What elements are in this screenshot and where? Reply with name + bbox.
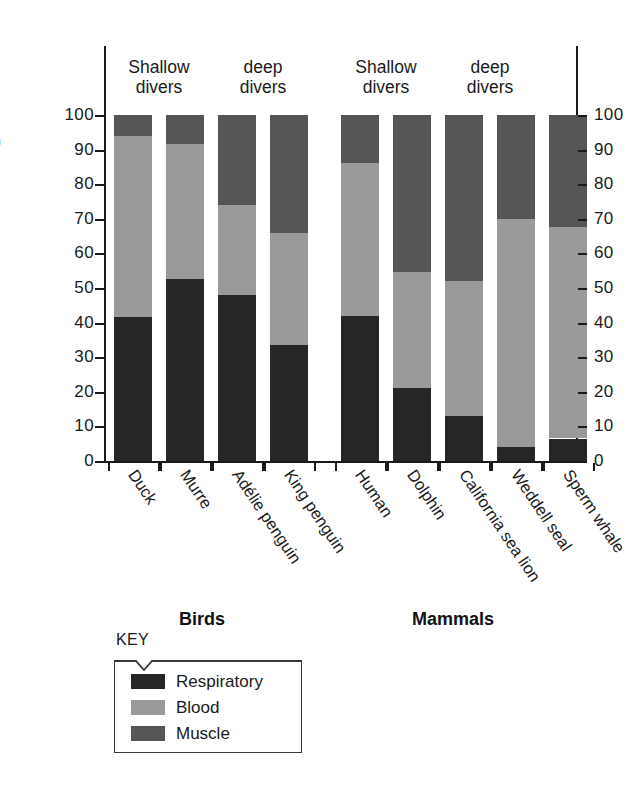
bar-weddell-seal	[497, 115, 535, 461]
x-tick	[593, 463, 595, 471]
y-tick-left	[95, 253, 104, 255]
y-tick-label-right: 50	[594, 279, 614, 296]
segment-muscle	[341, 115, 379, 163]
segment-respiratory	[114, 317, 152, 461]
y-tick-left	[95, 323, 104, 325]
segment-respiratory	[218, 295, 256, 461]
y-tick-right	[578, 426, 587, 428]
segment-blood	[166, 144, 204, 279]
y-tick-label-right: 0	[594, 452, 604, 469]
legend-item-blood: Blood	[131, 699, 219, 716]
legend-swatch-blood	[131, 700, 165, 715]
y-tick-label-left: 80	[74, 175, 94, 192]
segment-respiratory	[166, 279, 204, 461]
y-tick-left	[95, 288, 104, 290]
segment-blood	[114, 136, 152, 318]
y-tick-label-right: 100	[594, 106, 624, 123]
y-tick-label-left: 100	[64, 106, 94, 123]
segment-muscle	[166, 115, 204, 144]
y-tick-label-left: 20	[74, 383, 94, 400]
y-tick-left	[95, 392, 104, 394]
y-tick-right	[578, 184, 587, 186]
y-tick-label-right: 30	[594, 348, 614, 365]
x-axis-label-murre: Murre	[176, 466, 216, 512]
y-axis-title: % Total O2 store	[0, 87, 3, 232]
y-tick-left	[95, 219, 104, 221]
bar-ad-lie-penguin	[218, 115, 256, 461]
y-tick-label-left: 90	[74, 141, 94, 158]
segment-blood	[497, 219, 535, 447]
y-tick-left	[95, 357, 104, 359]
bar-dolphin	[393, 115, 431, 461]
y-tick-label-right: 80	[594, 175, 614, 192]
y-tick-left	[95, 426, 104, 428]
x-tick	[108, 463, 110, 471]
segment-muscle	[549, 115, 587, 227]
bar-duck	[114, 115, 152, 461]
segment-respiratory	[497, 447, 535, 461]
y-tick-right	[578, 253, 587, 255]
segment-muscle	[114, 115, 152, 136]
segment-respiratory	[445, 416, 483, 461]
x-tick	[314, 463, 316, 471]
legend-box: RespiratoryBloodMuscle	[114, 661, 302, 753]
y-tick-label-right: 20	[594, 383, 614, 400]
x-tick	[264, 463, 266, 471]
segment-blood	[218, 205, 256, 295]
x-tick	[335, 463, 337, 471]
segment-blood	[393, 272, 431, 388]
legend-swatch-respiratory	[131, 674, 165, 689]
caption-mammals-deep-divers: deep divers	[415, 57, 565, 97]
y-tick-left	[95, 184, 104, 186]
y-tick-label-left: 40	[74, 314, 94, 331]
bar-king-penguin	[270, 115, 308, 461]
y-tick-label-right: 60	[594, 244, 614, 261]
segment-muscle	[497, 115, 535, 219]
legend-swatch-muscle	[131, 726, 165, 741]
segment-muscle	[218, 115, 256, 205]
y-tick-label-left: 50	[74, 279, 94, 296]
y-tick-right	[578, 357, 587, 359]
legend-item-muscle: Muscle	[131, 725, 230, 742]
y-tick-label-right: 40	[594, 314, 614, 331]
x-tick	[491, 463, 493, 471]
x-axis-line	[104, 461, 578, 463]
x-axis-label-duck: Duck	[124, 466, 161, 508]
segment-muscle	[393, 115, 431, 272]
y-tick-label-left: 30	[74, 348, 94, 365]
segment-blood	[549, 227, 587, 438]
y-tick-label-right: 90	[594, 141, 614, 158]
legend-label-respiratory: Respiratory	[176, 673, 263, 690]
segment-blood	[445, 281, 483, 416]
y-tick-label-left: 0	[84, 452, 94, 469]
legend-label-muscle: Muscle	[176, 725, 230, 742]
segment-respiratory	[393, 388, 431, 461]
chart-root: % Total O2 store Shallow divers deep div…	[0, 0, 641, 791]
x-tick	[543, 463, 545, 471]
x-tick	[439, 463, 441, 471]
y-tick-right	[578, 461, 587, 463]
y-tick-left	[95, 150, 104, 152]
segment-muscle	[445, 115, 483, 281]
x-tick	[212, 463, 214, 471]
y-tick-right	[578, 219, 587, 221]
legend-label-blood: Blood	[176, 699, 219, 716]
legend-item-respiratory: Respiratory	[131, 673, 263, 690]
y-tick-right	[578, 115, 587, 117]
group-title-mammals: Mammals	[412, 609, 494, 630]
y-tick-left	[95, 461, 104, 463]
segment-respiratory	[341, 316, 379, 461]
y-tick-right	[578, 392, 587, 394]
y-tick-label-right: 10	[594, 417, 614, 434]
y-tick-label-right: 70	[594, 210, 614, 227]
y-tick-right	[578, 150, 587, 152]
segment-blood	[341, 163, 379, 315]
y-tick-label-left: 70	[74, 210, 94, 227]
segment-respiratory	[270, 345, 308, 461]
segment-respiratory	[549, 439, 587, 461]
group-title-birds: Birds	[179, 609, 225, 630]
y-tick-label-left: 10	[74, 417, 94, 434]
bar-human	[341, 115, 379, 461]
plot-area: 1001009090808070706060505040403030202010…	[104, 115, 578, 461]
y-tick-left	[95, 115, 104, 117]
